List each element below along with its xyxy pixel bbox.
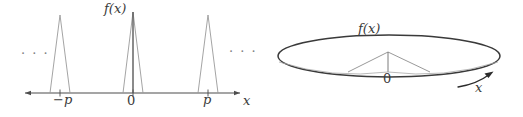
ellipsis-left: · · · xyxy=(21,47,49,60)
ellipsis-right: · · · xyxy=(229,45,257,58)
x-axis-arrow-left xyxy=(25,91,31,95)
spike-zero xyxy=(123,12,143,93)
pulse-outline xyxy=(348,52,430,72)
right-plot-panel: f(x) 0 x xyxy=(262,0,523,117)
x-axis-label: x xyxy=(243,94,250,107)
right-function-label: f(x) xyxy=(358,22,380,35)
tick-label-p: p xyxy=(203,93,211,106)
right-direction-label: x xyxy=(475,81,482,94)
direction-arrow-shaft xyxy=(458,74,490,87)
spike-minus-p-outline xyxy=(50,15,70,93)
spike-minus-p xyxy=(50,15,70,93)
left-plot-panel: f(x) −p 0 p x · · · · · · xyxy=(0,0,262,117)
figure-root: f(x) −p 0 p x · · · · · · f(x) 0 xyxy=(0,0,523,117)
tick-label-zero: 0 xyxy=(127,94,135,107)
left-function-label: f(x) xyxy=(104,2,126,15)
right-plot-svg xyxy=(262,0,523,117)
x-axis-arrow-right xyxy=(234,91,240,95)
spike-p-outline xyxy=(198,15,218,93)
right-origin-label: 0 xyxy=(383,72,391,85)
spike-p xyxy=(198,15,218,93)
tick-label-minus-p: −p xyxy=(53,93,72,106)
